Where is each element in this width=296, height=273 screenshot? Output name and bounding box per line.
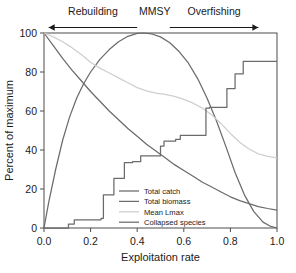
series-line-total-biomass	[44, 33, 277, 210]
annotation-label-rebuilding: Rebuilding	[68, 5, 118, 17]
y-tick-label: 100	[19, 27, 37, 39]
y-tick-label: 40	[25, 144, 37, 156]
x-axis: 0.00.20.40.60.81.0Exploitation rate	[37, 228, 285, 263]
annotation-label-overfishing: Overfishing	[188, 5, 241, 17]
arrow-head-left-icon	[49, 24, 55, 30]
legend-label-0: Total catch	[144, 187, 180, 196]
x-tick-label: 0.8	[223, 235, 238, 247]
y-tick-label: 60	[25, 105, 37, 117]
legend-label-3: Collapsed species	[144, 218, 206, 227]
top-annotations: RebuildingMMSYOverfishing	[49, 5, 259, 31]
y-tick-label: 0	[31, 222, 37, 234]
x-axis-title: Exploitation rate	[121, 251, 200, 263]
arrow-head-right-icon	[252, 24, 258, 30]
legend-label-2: Mean Lmax	[144, 208, 184, 217]
exploitation-rate-chart: RebuildingMMSYOverfishing0.00.20.40.60.8…	[0, 0, 296, 273]
x-tick-label: 0.0	[37, 235, 52, 247]
y-axis-title: Percent of maximum	[3, 80, 15, 181]
legend-label-1: Total biomass	[144, 197, 191, 206]
x-tick-label: 0.4	[130, 235, 145, 247]
annotation-label-mmsy: MMSY	[139, 5, 171, 17]
series-line-mean-lmax	[44, 33, 277, 158]
x-tick-label: 0.2	[83, 235, 98, 247]
y-tick-label: 20	[25, 183, 37, 195]
x-tick-label: 0.6	[176, 235, 191, 247]
legend: Total catchTotal biomassMean LmaxCollaps…	[119, 187, 206, 227]
y-tick-label: 80	[25, 66, 37, 78]
x-tick-label: 1.0	[270, 235, 285, 247]
y-axis: 020406080100Percent of maximum	[3, 27, 44, 234]
chart-figure: RebuildingMMSYOverfishing0.00.20.40.60.8…	[0, 0, 296, 273]
